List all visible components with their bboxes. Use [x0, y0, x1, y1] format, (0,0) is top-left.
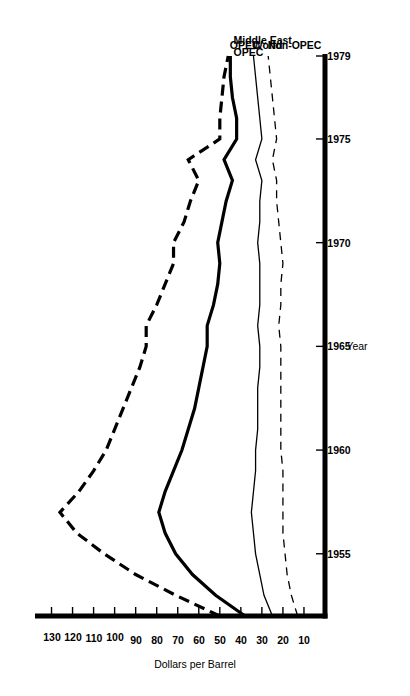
- x-axis-tick-label: 1960: [327, 444, 350, 456]
- series-label-line: Non-OPEC: [268, 40, 322, 52]
- y-axis-tick-label: 50: [214, 634, 226, 646]
- x-axis-tick-label: 1970: [327, 237, 350, 249]
- y-axis-tick-label: 10: [298, 634, 310, 646]
- y-axis-tick-label: 90: [130, 634, 142, 646]
- x-axis-title: Year: [346, 340, 367, 352]
- y-axis-tick-label: 60: [193, 634, 205, 646]
- x-axis-tick-label: 1955: [327, 548, 350, 560]
- y-axis-tick-label: 30: [256, 634, 268, 646]
- y-axis-tick-label: 80: [151, 634, 163, 646]
- x-axis-tick-label: 1979: [327, 50, 350, 62]
- y-axis-tick-label: 20: [277, 634, 289, 646]
- series-line-non-opec: [268, 56, 297, 616]
- series-group: [60, 56, 298, 616]
- y-axis-tick-label: 70: [172, 634, 184, 646]
- y-axis-tick-label: 100: [106, 631, 124, 643]
- y-axis-tick-label: 120: [64, 631, 82, 643]
- series-line-middle-east-opec: [60, 56, 228, 616]
- rotated-chart-stage: 195519601965197019751979 102030405060708…: [25, 28, 385, 668]
- ticks-group: [52, 56, 325, 616]
- y-axis-tick-label: 130: [43, 631, 61, 643]
- series-label-non-opec: Non-OPEC: [268, 40, 322, 52]
- y-axis-tick-label: 110: [85, 632, 102, 644]
- y-axis-title: Dollars per Barrel: [154, 658, 236, 670]
- series-line-world: [251, 56, 272, 616]
- series-line-opec: [159, 56, 245, 616]
- y-axis-tick-label: 40: [235, 634, 247, 646]
- x-axis-tick-label: 1975: [327, 133, 350, 145]
- plot-frame: 195519601965197019751979 102030405060708…: [25, 28, 385, 668]
- chart-page: 195519601965197019751979 102030405060708…: [0, 0, 410, 696]
